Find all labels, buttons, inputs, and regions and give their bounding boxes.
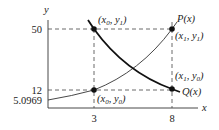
y-tick-5-0969: 5.0969 [13,95,42,106]
label-x1-y0: (x1, y0) [175,70,204,83]
label-x0-y1: (x0, y1) [98,14,127,27]
curve-q [88,20,180,92]
point-x1-y1 [169,26,175,32]
label-x0-y0: (x0, y0) [97,93,126,106]
point-x0-y1 [91,26,97,32]
curve-label-p: P(x) [176,13,196,25]
y-axis-label: y [43,4,49,15]
diagram-canvas: y x 50 12 5.0969 3 8 P(x) Q(x) (x0, y1) … [0,0,219,130]
point-x1-y0 [169,86,175,92]
y-tick-50: 50 [32,24,43,35]
x-tick-8: 8 [169,113,174,124]
x-tick-3: 3 [91,113,96,124]
x-axis-label: x [201,102,207,113]
curve-p [48,22,177,100]
label-x1-y1: (x1, y1) [175,30,204,43]
point-x0-y0 [91,87,97,93]
curve-label-q: Q(x) [182,86,202,98]
